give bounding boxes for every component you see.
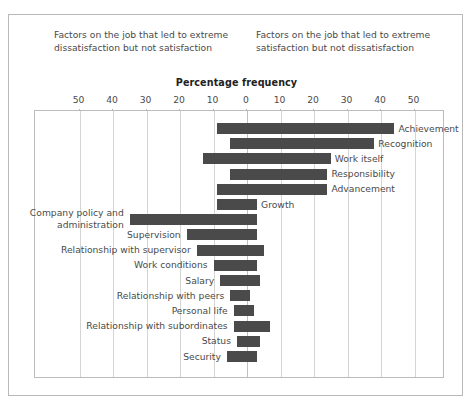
bar-label: Recognition (378, 138, 432, 150)
bar-label: Advancement (331, 183, 395, 195)
x-axis-tick-label: 40 (99, 94, 125, 105)
x-axis-tick-label: 20 (300, 94, 326, 105)
bar (217, 123, 395, 134)
bar-label: Work itself (335, 153, 384, 165)
plot-area: AchievementRecognitionWork itselfRespons… (34, 110, 444, 378)
bar-label: Security (183, 351, 221, 363)
bar-label: Growth (261, 199, 294, 211)
x-axis-tick-label: 50 (66, 94, 92, 105)
gridline (281, 111, 282, 377)
x-axis-tick-label: 50 (401, 94, 427, 105)
gridline (415, 111, 416, 377)
bar-label: Salary (185, 275, 214, 287)
caption-satisfaction: Factors on the job that led to extreme s… (256, 29, 441, 54)
bar-label: Relationship with supervisor (61, 244, 191, 256)
bar-label: Relationship with peers (117, 290, 224, 302)
axis-title: Percentage frequency (9, 77, 464, 88)
gridline (348, 111, 349, 377)
bar-label: Personal life (172, 305, 228, 317)
bar-label: Achievement (398, 123, 458, 135)
bar (237, 336, 260, 347)
x-axis-tick-label: 30 (334, 94, 360, 105)
bar-label: Responsibility (331, 168, 395, 180)
bar (230, 169, 327, 180)
x-axis-tick-label: 0 (233, 94, 259, 105)
bar (197, 245, 264, 256)
caption-dissatisfaction: Factors on the job that led to extreme d… (54, 29, 229, 54)
bar-label: Relationship with subordinates (86, 320, 227, 332)
x-axis-tick-label: 10 (200, 94, 226, 105)
bar (234, 305, 254, 316)
x-axis-tick-label: 10 (267, 94, 293, 105)
x-axis-tick-label: 40 (367, 94, 393, 105)
bar-label: Work conditions (134, 259, 207, 271)
bar (230, 290, 250, 301)
bar (234, 321, 271, 332)
bar (227, 351, 257, 362)
bar-label: Supervision (127, 229, 181, 241)
gridline (314, 111, 315, 377)
bar-label: Status (202, 335, 231, 347)
bar (187, 229, 257, 240)
bar (130, 214, 257, 225)
bar (220, 275, 260, 286)
bar (203, 153, 330, 164)
bar-label: Company policy and administration (4, 207, 124, 230)
bar (214, 260, 258, 271)
bar (230, 138, 374, 149)
figure-frame: Factors on the job that led to extreme d… (8, 14, 463, 396)
x-axis-tick-label: 20 (166, 94, 192, 105)
bar (217, 184, 328, 195)
gridline (381, 111, 382, 377)
x-axis-tick-label: 30 (133, 94, 159, 105)
bar (217, 199, 257, 210)
